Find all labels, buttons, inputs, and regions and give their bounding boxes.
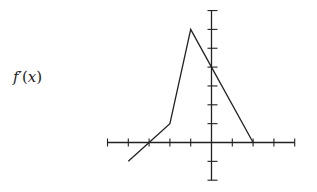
derivative-plot xyxy=(0,0,317,192)
